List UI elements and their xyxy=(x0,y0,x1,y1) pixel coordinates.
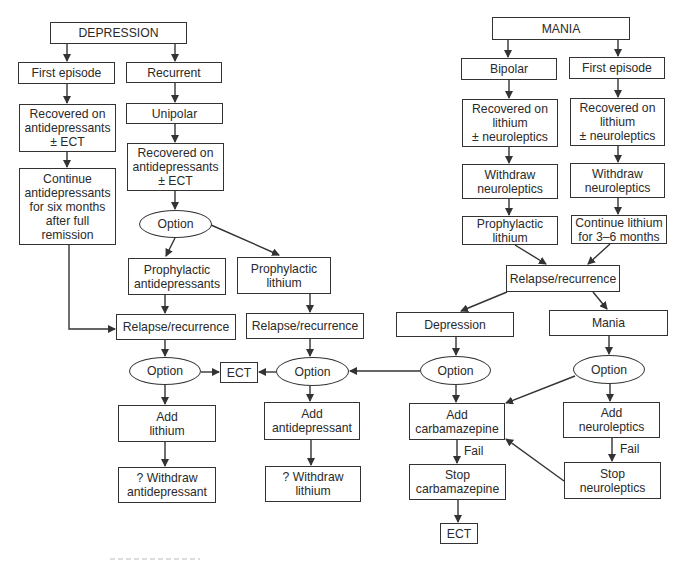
node-dep-continue: Continue antidepressants for six months … xyxy=(19,168,116,245)
arrow-option-prophylactic-lithium xyxy=(211,225,279,255)
node-ect-bottom: ECT xyxy=(440,523,478,544)
edge-label-fail-neuroleptics: Fail xyxy=(620,442,639,456)
node-dep-first-episode: First episode xyxy=(18,62,115,84)
node-mania-recovered-first: Recovered on lithium ± neuroleptics xyxy=(570,98,665,146)
node-stop-neuroleptics: Stop neuroleptics xyxy=(564,462,661,499)
node-prophylactic-lithium-mania: Prophylactic lithium xyxy=(462,216,558,245)
node-option-1: Option xyxy=(139,210,212,238)
node-mania-recovered-bipolar: Recovered on lithium ± neuroleptics xyxy=(462,99,558,147)
node-withdraw-antidepressant: ? Withdraw antidepressant xyxy=(118,467,216,503)
node-withdraw-neuroleptics-left: Withdraw neuroleptics xyxy=(462,164,558,199)
node-relapse-right: Relapse/recurrence xyxy=(506,265,620,292)
node-add-neuroleptics: Add neuroleptics xyxy=(563,402,660,438)
node-add-carbamazepine: Add carbamazepine xyxy=(409,403,505,440)
node-option-dep: Option xyxy=(420,356,491,385)
node-option-left: Option xyxy=(129,357,201,385)
arrow-option-mania-add-carbamazepine xyxy=(506,376,575,403)
arrow-relapse-mania xyxy=(593,292,607,309)
arrow-continue-relapse-right xyxy=(588,244,610,264)
node-dep-recurrent: Recurrent xyxy=(126,62,222,83)
node-mania: MANIA xyxy=(492,17,630,40)
node-prophylactic-lithium-dep: Prophylactic lithium xyxy=(237,257,331,294)
node-stop-carbamazepine: Stop carbamazepine xyxy=(409,464,506,500)
arrow-option-prophylactic-antidep xyxy=(166,238,175,256)
node-add-lithium: Add lithium xyxy=(118,405,216,442)
node-dep-recovered-first: Recovered on antidepressants ± ECT xyxy=(19,104,116,152)
node-mania-mania: Mania xyxy=(549,310,668,336)
node-mania-first-episode: First episode xyxy=(569,57,665,79)
clipped-caption-fragment xyxy=(110,556,200,562)
node-option-middle: Option xyxy=(276,357,349,386)
node-mania-depression: Depression xyxy=(396,312,514,337)
node-relapse-left: Relapse/recurrence xyxy=(116,314,236,340)
node-withdraw-lithium: ? Withdraw lithium xyxy=(265,466,361,502)
node-mania-bipolar: Bipolar xyxy=(461,58,557,80)
arrow-continue-relapse xyxy=(69,245,115,329)
node-add-antidepressant: Add antidepressant xyxy=(264,402,360,440)
edge-label-fail-carbamazepine: Fail xyxy=(464,444,483,458)
node-withdraw-neuroleptics-right: Withdraw neuroleptics xyxy=(570,163,665,198)
node-continue-lithium: Continue lithium for 3–6 months xyxy=(571,215,667,244)
node-relapse-middle: Relapse/recurrence xyxy=(246,313,364,339)
node-depression: DEPRESSION xyxy=(50,22,187,44)
arrow-prophylactic-relapse xyxy=(515,245,546,264)
arrow-relapse-depression xyxy=(461,292,507,311)
node-option-mania: Option xyxy=(573,355,645,384)
arrow-stop-neuroleptics-add-carbamazepine xyxy=(506,439,564,481)
node-dep-unipolar: Unipolar xyxy=(126,103,223,124)
node-ect-middle: ECT xyxy=(220,362,258,383)
node-dep-recovered-recurrent: Recovered on antidepressants ± ECT xyxy=(127,143,224,191)
node-prophylactic-antidepressants: Prophylactic antidepressants xyxy=(128,258,226,295)
flowchart-canvas: DEPRESSION First episode Recurrent Recov… xyxy=(0,0,683,562)
